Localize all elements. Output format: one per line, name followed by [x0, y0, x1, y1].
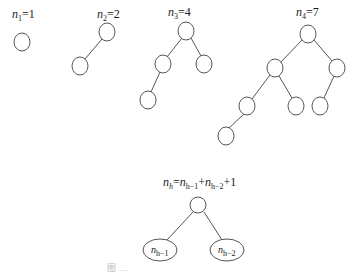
tree-edge: [191, 38, 201, 56]
tree-n4-label: n4=7: [296, 5, 319, 21]
avl-minimum-nodes-diagram: n1=1 n2=2 n3=4 n4=7 nh=n: [0, 0, 353, 273]
tree-edge: [252, 75, 270, 99]
tree-edge: [167, 38, 182, 57]
tree-node: [329, 59, 345, 77]
tree-node: [140, 91, 156, 109]
tree-edge: [151, 72, 160, 92]
tree-edge: [314, 40, 332, 61]
tree-n3: n3=4: [140, 5, 212, 109]
tree-n3-label: n3=4: [168, 5, 191, 21]
tree-node: [178, 22, 194, 40]
tree-node: [218, 127, 234, 145]
tree-edge: [204, 212, 222, 240]
tree-edge: [281, 40, 302, 62]
tree-node: [99, 23, 115, 41]
tree-n2-label: n2=2: [97, 7, 120, 23]
tree-n4: n4=7: [218, 5, 345, 145]
recurrence-formula: nh=nh−1+nh−2+1: [163, 175, 236, 191]
tree-node: [239, 97, 255, 115]
tree-n2: n2=2: [72, 7, 120, 75]
tree-node: [267, 59, 283, 77]
tree-n1: n1=1: [12, 7, 35, 51]
recurrence-tree: nh=nh−1+nh−2+1 nh−1 nh−2: [143, 175, 244, 261]
tree-edge: [279, 76, 292, 98]
tree-node: [312, 97, 328, 115]
tree-edge: [229, 114, 244, 128]
figure-caption: 图 …: [107, 263, 128, 273]
tree-edge: [167, 212, 193, 240]
tree-edge: [85, 39, 102, 59]
tree-node: [190, 197, 206, 213]
tree-node: [300, 25, 316, 43]
tree-node: [288, 97, 304, 115]
tree-n1-label: n1=1: [12, 7, 35, 23]
tree-edge: [324, 76, 334, 98]
tree-node: [155, 55, 171, 73]
tree-node: [14, 33, 30, 51]
tree-node: [72, 57, 88, 75]
tree-node: [196, 55, 212, 73]
